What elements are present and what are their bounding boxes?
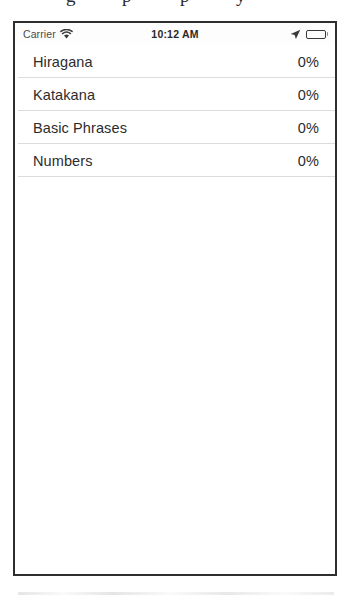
battery-cap (327, 32, 329, 36)
status-bar-right (290, 29, 329, 40)
location-arrow-icon (290, 29, 301, 40)
row-progress-value: 0% (298, 54, 319, 70)
table-row[interactable]: Hiragana0% (15, 45, 335, 78)
row-title: Katakana (33, 87, 95, 103)
caption-fragment: p (122, 0, 132, 5)
wifi-icon (60, 29, 73, 39)
row-progress-value: 0% (298, 153, 319, 169)
table-row[interactable]: Katakana0% (15, 78, 335, 111)
table-row[interactable]: Numbers0% (15, 144, 335, 177)
scan-artifact (18, 592, 334, 595)
status-bar-left: Carrier (23, 28, 73, 40)
row-title: Numbers (33, 153, 93, 169)
caption-fragment: y (236, 0, 246, 5)
caption-fragments: gppy (0, 0, 352, 13)
status-bar: Carrier 10:12 AM (15, 23, 335, 45)
carrier-label: Carrier (23, 28, 56, 40)
battery-icon (306, 30, 329, 39)
caption-fragment: g (66, 0, 76, 5)
caption-fragment: p (180, 0, 190, 5)
row-title: Hiragana (33, 54, 93, 70)
device-frame: Carrier 10:12 AM (13, 21, 337, 576)
row-title: Basic Phrases (33, 120, 127, 136)
row-progress-value: 0% (298, 120, 319, 136)
table-row[interactable]: Basic Phrases0% (15, 111, 335, 144)
row-progress-value: 0% (298, 87, 319, 103)
progress-table-view[interactable]: Hiragana0%Katakana0%Basic Phrases0%Numbe… (15, 45, 335, 574)
